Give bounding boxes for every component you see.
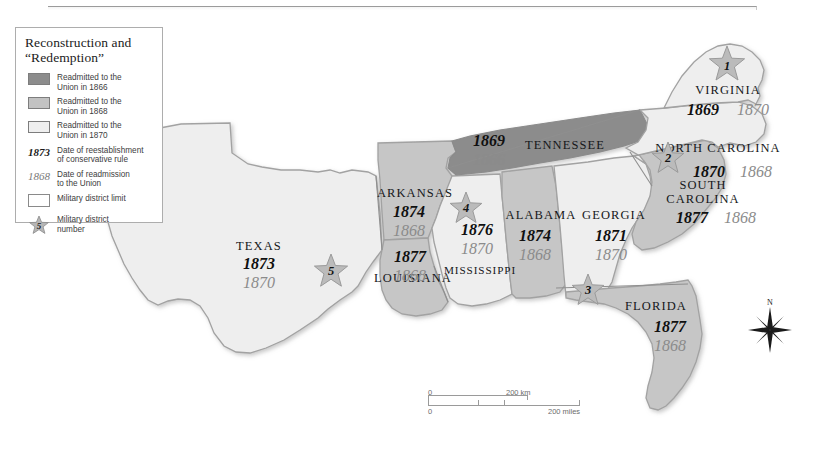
state-label-alabama: ALABAMA [506, 208, 577, 223]
district-number-4: 4 [463, 201, 469, 216]
star-icon: 5 [28, 215, 50, 235]
legend-label-readmitted-1866: Readmitted to the Union in 1866 [53, 72, 122, 92]
color-swatch-icon [28, 97, 50, 109]
district-number-3: 3 [585, 283, 591, 298]
legend-row-district-number: 5 Military district number [25, 214, 154, 235]
color-swatch-icon [28, 73, 50, 85]
scale-label-km: 200 km [506, 388, 531, 397]
state-label-tennessee: TENNESSEE [525, 138, 605, 153]
legend-swatch-medium [25, 96, 53, 109]
state-date-readmission-alabama: 1868 [519, 246, 551, 264]
legend-label-district-number: Military district number [53, 214, 109, 234]
legend-sample-light-date: 1868 [25, 169, 53, 182]
legend-label-line-1: Date of readmission [57, 170, 130, 180]
scale-tick-half-miles [504, 400, 505, 406]
legend-label-line-2: of conservative rule [57, 155, 143, 165]
legend-title-line-1: Reconstruction and [25, 35, 154, 50]
legend-label-line-2: Union in 1866 [57, 83, 122, 93]
state-label-south-carolina-line-2: CAROLINA [666, 192, 739, 207]
legend-row-conservative-rule-date: 1873 Date of reestablishment of conserva… [25, 145, 154, 165]
district-limit-icon [28, 194, 50, 207]
state-date-conservative-south-carolina: 1877 [676, 209, 708, 227]
state-date-readmission-tennessee: 1866 [473, 151, 505, 169]
state-label-texas: TEXAS [236, 239, 282, 254]
state-label-georgia: GEORGIA [582, 208, 646, 223]
state-date-conservative-arkansas: 1874 [393, 203, 425, 221]
state-date-readmission-south-carolina: 1868 [724, 209, 756, 227]
legend-label-readmitted-1868: Readmitted to the Union in 1868 [53, 96, 122, 116]
legend-swatch-dark [25, 72, 53, 85]
legend-label-line-2: number [57, 225, 109, 235]
state-date-conservative-florida: 1877 [654, 318, 686, 336]
state-date-conservative-alabama: 1874 [519, 227, 551, 245]
legend-label-line-2: to the Union [57, 179, 130, 189]
color-swatch-icon [28, 121, 50, 133]
legend-label-line-2: Union in 1870 [57, 131, 122, 141]
state-date-conservative-virginia: 1869 [687, 101, 719, 119]
legend-label-line-2: Union in 1868 [57, 107, 122, 117]
state-label-arkansas: ARKANSAS [377, 186, 453, 201]
legend-date-sample: 1868 [28, 170, 50, 182]
legend-label-district-limit: Military district limit [53, 193, 126, 204]
compass-north-label: N [767, 298, 773, 307]
legend-label-line-1: Readmitted to the [57, 121, 122, 131]
legend-label-line-1: Military district [57, 215, 109, 225]
legend-row-readmitted-1870: Readmitted to the Union in 1870 [25, 120, 154, 140]
legend-label-line-1: Readmitted to the [57, 73, 122, 83]
legend-title: Reconstruction and “Redemption” [25, 35, 154, 65]
state-date-conservative-louisiana: 1877 [394, 248, 426, 266]
legend-label-line-1: Date of reestablishment [57, 146, 143, 156]
legend-label-line-1: Readmitted to the [57, 97, 122, 107]
legend-label-conservative-rule: Date of reestablishment of conservative … [53, 145, 143, 165]
state-date-readmission-florida: 1868 [654, 337, 686, 355]
scale-bar: 0 200 km 0 200 miles [428, 388, 580, 420]
state-date-readmission-texas: 1870 [243, 274, 275, 292]
state-label-mississippi: MISSISSIPPI [444, 264, 516, 276]
scale-tick-half-km [478, 400, 479, 406]
state-date-readmission-virginia: 1870 [737, 101, 769, 119]
legend-row-readmitted-1868: Readmitted to the Union in 1868 [25, 96, 154, 116]
legend-date-sample: 1873 [28, 146, 50, 158]
state-date-conservative-georgia: 1871 [595, 227, 627, 245]
legend-swatch-light [25, 120, 53, 133]
state-date-readmission-mississippi: 1870 [461, 240, 493, 258]
district-number-1: 1 [724, 59, 730, 74]
state-date-conservative-texas: 1873 [243, 255, 275, 273]
scale-label-km-zero: 0 [428, 388, 432, 397]
legend-title-line-2: “Redemption” [25, 50, 154, 65]
legend-sample-bold-date: 1873 [25, 145, 53, 158]
legend-label-readmission: Date of readmission to the Union [53, 169, 130, 189]
legend-row-district-limit: Military district limit [25, 193, 154, 210]
state-date-conservative-tennessee: 1869 [473, 132, 505, 150]
scale-label-miles-zero: 0 [428, 407, 432, 416]
map-legend: Reconstruction and “Redemption” Readmitt… [15, 27, 163, 223]
compass-rose: N [748, 298, 792, 354]
legend-label-line-1: Military district limit [57, 194, 126, 204]
state-date-readmission-georgia: 1870 [595, 246, 627, 264]
legend-row-readmitted-1866: Readmitted to the Union in 1866 [25, 72, 154, 92]
scale-label-miles: 200 miles [548, 407, 580, 416]
legend-swatch-outline [25, 193, 53, 207]
state-date-readmission-arkansas: 1868 [393, 222, 425, 240]
state-date-readmission-louisiana: 1868 [394, 267, 426, 285]
legend-star-sample: 5 [25, 214, 53, 235]
state-label-virginia: VIRGINIA [695, 83, 761, 98]
legend-star-number: 5 [37, 221, 42, 231]
state-label-florida: FLORIDA [625, 299, 687, 314]
district-number-2: 2 [665, 151, 671, 166]
state-date-conservative-north-carolina: 1870 [693, 163, 725, 181]
legend-row-readmission-date: 1868 Date of readmission to the Union [25, 169, 154, 189]
legend-label-readmitted-1870: Readmitted to the Union in 1870 [53, 120, 122, 140]
state-date-readmission-north-carolina: 1868 [740, 163, 772, 181]
compass-star-icon [748, 307, 792, 353]
district-number-5: 5 [328, 264, 334, 279]
